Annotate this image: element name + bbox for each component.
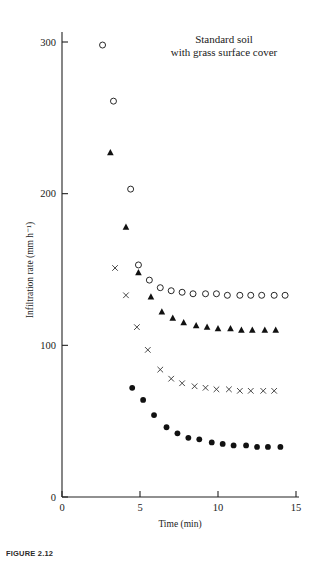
data-point	[157, 285, 163, 291]
data-point	[215, 325, 222, 331]
data-point	[134, 324, 140, 330]
data-point	[259, 292, 265, 298]
annotation-line-2: with grass surface cover	[171, 46, 278, 58]
data-point	[248, 388, 254, 394]
data-point	[159, 308, 166, 314]
data-point	[226, 387, 232, 393]
data-point	[237, 292, 243, 298]
x-tick-label-15: 15	[291, 502, 302, 513]
x-tick-label-0: 0	[59, 502, 64, 513]
data-point	[265, 444, 271, 450]
y-tick-label-300: 300	[40, 37, 56, 48]
x-axis-ticks: 051015	[59, 491, 301, 513]
data-point	[175, 430, 181, 436]
data-point	[123, 223, 130, 229]
data-point	[179, 289, 185, 295]
data-point	[272, 327, 279, 333]
data-point	[169, 314, 176, 320]
data-point	[192, 383, 198, 389]
data-point	[248, 292, 254, 298]
data-point	[140, 397, 146, 403]
data-point	[128, 186, 134, 192]
data-point	[185, 435, 191, 441]
series-filled-triangle	[107, 149, 279, 333]
data-point	[168, 376, 174, 382]
data-point	[261, 327, 268, 333]
data-point	[203, 385, 209, 391]
data-point	[271, 292, 277, 298]
x-axis-title: Time (min)	[158, 519, 201, 530]
data-point	[227, 325, 234, 331]
data-point	[123, 292, 129, 298]
data-point	[278, 444, 284, 450]
data-point	[148, 293, 155, 299]
data-point	[168, 288, 174, 294]
data-point	[196, 436, 202, 442]
data-point	[254, 444, 260, 450]
data-point	[112, 265, 118, 271]
data-point	[151, 412, 157, 418]
data-point	[193, 322, 200, 328]
data-point	[204, 324, 211, 330]
annotation-line-1: Standard soil	[195, 33, 253, 45]
data-point	[243, 443, 249, 449]
data-point	[209, 440, 215, 446]
y-tick-label-200: 200	[40, 188, 56, 199]
data-point	[107, 149, 114, 155]
chart-axes	[62, 32, 299, 497]
data-point	[282, 292, 288, 298]
y-tick-label-100: 100	[40, 340, 56, 351]
data-point	[213, 291, 219, 297]
infiltration-rate-scatter-chart: 0100200300 051015 Time (min) Infiltratio…	[0, 0, 322, 564]
series-filled-circle	[129, 385, 283, 450]
data-point	[164, 424, 170, 430]
data-point	[129, 385, 135, 391]
series-open-circle	[100, 42, 289, 298]
data-point	[110, 98, 116, 104]
data-point	[135, 262, 141, 268]
x-tick-label-10: 10	[213, 502, 224, 513]
y-axis-ticks: 0100200300	[40, 37, 68, 503]
data-point	[190, 291, 196, 297]
data-point	[231, 443, 237, 449]
y-axis-title: Infiltration rate (mm h⁻¹)	[25, 222, 36, 318]
data-point	[238, 327, 245, 333]
figure-panel: 0100200300 051015 Time (min) Infiltratio…	[0, 0, 322, 564]
data-point	[203, 291, 209, 297]
data-point-layer	[100, 42, 289, 450]
chart-annotation: Standard soil with grass surface cover	[171, 33, 278, 58]
data-point	[180, 319, 187, 325]
data-point	[100, 42, 106, 48]
data-point	[271, 388, 277, 394]
data-point	[145, 347, 151, 353]
data-point	[220, 441, 226, 447]
x-tick-label-5: 5	[137, 502, 142, 513]
data-point	[237, 388, 243, 394]
data-point	[179, 380, 185, 386]
data-point	[157, 367, 163, 373]
data-point	[260, 388, 266, 394]
data-point	[214, 387, 220, 393]
y-tick-label-0: 0	[51, 492, 56, 503]
data-point	[224, 292, 230, 298]
data-point	[135, 269, 142, 275]
data-point	[146, 277, 152, 283]
data-point	[249, 327, 256, 333]
figure-caption: FIGURE 2.12	[6, 549, 126, 558]
